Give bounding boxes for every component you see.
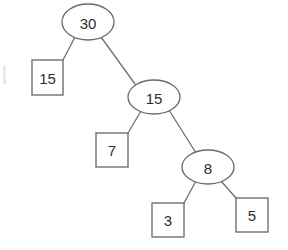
leaf-node-15[interactable]: 15: [32, 60, 63, 95]
leaf-node-5[interactable]: 5: [236, 198, 268, 232]
node-15-label: 15: [146, 90, 163, 107]
leaf-node-7-label: 7: [108, 142, 116, 159]
node-root[interactable]: 30: [62, 4, 114, 40]
leaf-node-3[interactable]: 3: [152, 203, 184, 237]
leaf-node-3-label: 3: [164, 212, 172, 229]
binary-tree-diagram: 30 15 15 7 8 3 5: [0, 0, 288, 250]
leaf-node-7[interactable]: 7: [96, 133, 128, 167]
node-8-label: 8: [204, 160, 212, 177]
node-root-label: 30: [80, 15, 97, 32]
leaf-node-15-label: 15: [39, 70, 56, 87]
leaf-node-5-label: 5: [248, 207, 256, 224]
scan-artifact-speck: [3, 66, 6, 84]
node-8[interactable]: 8: [182, 150, 234, 184]
node-15[interactable]: 15: [128, 80, 180, 114]
